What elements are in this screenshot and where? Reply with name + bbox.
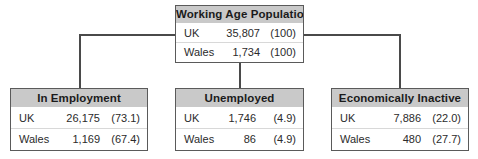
row-label: UK (184, 112, 222, 124)
node-unemployed: Unemployed UK 1,746 (4.9) Wales 86 (4.9) (175, 88, 304, 151)
row-label: Wales (184, 133, 222, 145)
table-row: UK 1,746 (4.9) (176, 107, 303, 128)
node-rows-working-age-population: UK 35,807 (100) Wales 1,734 (100) (176, 23, 303, 61)
row-value: 26,175 (57, 112, 100, 124)
row-label: UK (184, 27, 220, 39)
row-value: 35,807 (220, 27, 260, 39)
table-row: UK 26,175 (73.1) (11, 107, 147, 128)
table-row: UK 7,886 (22.0) (332, 107, 468, 128)
node-header-in-employment: In Employment (11, 89, 147, 107)
row-label: UK (19, 112, 57, 124)
table-row: Wales 480 (27.7) (332, 128, 468, 149)
table-row: Wales 1,169 (67.4) (11, 128, 147, 149)
node-header-working-age-population: Working Age Population (176, 6, 303, 23)
row-label: Wales (19, 133, 57, 145)
connector-left-vertical (79, 34, 81, 89)
row-label: UK (340, 112, 378, 124)
node-economically-inactive: Economically Inactive UK 7,886 (22.0) Wa… (331, 88, 469, 151)
row-percent: (22.0) (421, 112, 461, 124)
table-row: UK 35,807 (100) (176, 23, 303, 42)
population-flow-diagram: Working Age Population UK 35,807 (100) W… (0, 0, 478, 159)
row-value: 1,746 (222, 112, 256, 124)
table-row: Wales 86 (4.9) (176, 128, 303, 149)
node-in-employment: In Employment UK 26,175 (73.1) Wales 1,1… (10, 88, 148, 151)
row-label: Wales (340, 133, 378, 145)
node-rows-in-employment: UK 26,175 (73.1) Wales 1,169 (67.4) (11, 107, 147, 149)
row-value: 1,169 (57, 133, 100, 145)
row-percent: (100) (260, 27, 296, 39)
row-value: 7,886 (378, 112, 421, 124)
row-percent: (67.4) (100, 133, 140, 145)
connector-middle-vertical (239, 62, 241, 89)
node-rows-unemployed: UK 1,746 (4.9) Wales 86 (4.9) (176, 107, 303, 149)
row-value: 86 (222, 133, 256, 145)
node-header-unemployed: Unemployed (176, 89, 303, 107)
row-value: 1,734 (220, 46, 260, 58)
node-working-age-population: Working Age Population UK 35,807 (100) W… (175, 5, 304, 63)
row-percent: (27.7) (421, 133, 461, 145)
row-percent: (100) (260, 46, 296, 58)
node-rows-economically-inactive: UK 7,886 (22.0) Wales 480 (27.7) (332, 107, 468, 149)
row-percent: (4.9) (256, 133, 296, 145)
connector-right-horizontal (303, 34, 401, 36)
row-percent: (4.9) (256, 112, 296, 124)
connector-left-horizontal (79, 34, 176, 36)
table-row: Wales 1,734 (100) (176, 42, 303, 61)
row-value: 480 (378, 133, 421, 145)
node-header-economically-inactive: Economically Inactive (332, 89, 468, 107)
row-label: Wales (184, 46, 220, 58)
connector-right-vertical (399, 34, 401, 89)
row-percent: (73.1) (100, 112, 140, 124)
